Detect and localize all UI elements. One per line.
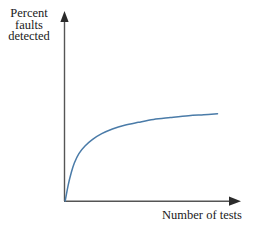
figure-canvas: Percent faults detected Number of tests (0, 0, 258, 243)
data-series-line (65, 114, 217, 201)
y-axis-label-line-3: detected (0, 31, 58, 43)
y-axis-label: Percent faults detected (0, 8, 58, 43)
arrow-right-icon (229, 197, 241, 206)
x-axis-label: Number of tests (150, 210, 254, 222)
arrow-up-icon (60, 11, 68, 22)
